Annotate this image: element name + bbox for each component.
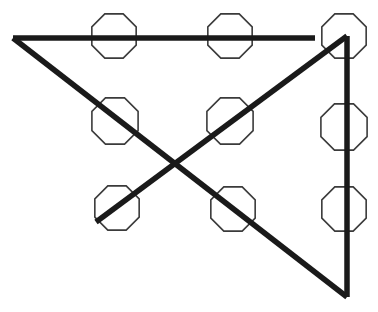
figure-svg: [0, 0, 378, 312]
figure-canvas: [0, 0, 378, 312]
